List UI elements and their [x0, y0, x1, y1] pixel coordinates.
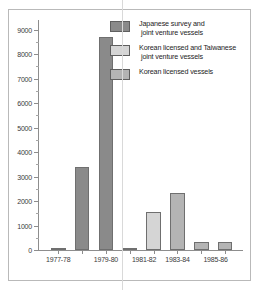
- y-tick-major: [34, 30, 39, 31]
- y-tick-major: [34, 103, 39, 104]
- y-tick-label: 5000: [17, 124, 32, 131]
- legend-swatch: [110, 45, 130, 56]
- y-tick-minor: [36, 115, 39, 116]
- x-tick: [58, 250, 59, 254]
- legend-swatch: [110, 21, 130, 32]
- bar-chart-figure: 0100020003000400050006000700080009000 19…: [0, 0, 260, 290]
- y-tick-minor: [36, 238, 39, 239]
- x-tick-label: 1985-86: [203, 256, 227, 263]
- x-tick-label: 1983-84: [165, 256, 189, 263]
- legend-item: Korean licensed vessels: [110, 68, 250, 80]
- x-tick: [106, 250, 107, 254]
- x-tick-label: 1979-80: [94, 256, 118, 263]
- y-tick-major: [34, 226, 39, 227]
- bar: [194, 242, 209, 250]
- y-tick-minor: [36, 213, 39, 214]
- legend-label: Japanese survey andjoint venture vessels: [139, 20, 204, 37]
- y-tick-label: 3000: [17, 173, 32, 180]
- y-tick-label: 2000: [17, 198, 32, 205]
- y-tick-label: 6000: [17, 100, 32, 107]
- y-tick-major: [34, 201, 39, 202]
- legend-item: Korean licensed and Taiwanesejoint ventu…: [110, 44, 250, 61]
- x-tick-label: 1977-78: [46, 256, 70, 263]
- legend-label-line: joint venture vessels: [139, 29, 204, 38]
- y-tick-major: [34, 177, 39, 178]
- y-tick-major: [34, 250, 39, 251]
- legend-label: Korean licensed and Taiwanesejoint ventu…: [139, 44, 236, 61]
- y-tick-minor: [36, 42, 39, 43]
- y-tick-label: 7000: [17, 75, 32, 82]
- y-tick-major: [34, 128, 39, 129]
- legend-label-line: Korean licensed vessels: [139, 68, 213, 77]
- y-tick-label: 0: [28, 247, 32, 254]
- x-tick: [82, 250, 83, 254]
- legend-label: Korean licensed vessels: [139, 68, 213, 77]
- x-tick: [130, 250, 131, 254]
- y-tick-minor: [36, 66, 39, 67]
- y-tick-minor: [36, 164, 39, 165]
- y-tick-minor: [36, 189, 39, 190]
- y-tick-label: 1000: [17, 222, 32, 229]
- chart-legend: Japanese survey andjoint venture vessels…: [110, 20, 250, 87]
- y-tick-minor: [36, 91, 39, 92]
- y-tick-major: [34, 79, 39, 80]
- bar: [146, 212, 161, 250]
- legend-item: Japanese survey andjoint venture vessels: [110, 20, 250, 37]
- bar: [218, 242, 233, 250]
- legend-swatch: [110, 69, 130, 80]
- legend-label-line: joint venture vessels: [139, 53, 236, 62]
- x-tick: [225, 250, 226, 254]
- y-tick-label: 9000: [17, 26, 32, 33]
- bar: [51, 248, 66, 250]
- x-tick-label: 1981-82: [132, 256, 156, 263]
- bar: [75, 167, 90, 250]
- y-tick-label: 4000: [17, 149, 32, 156]
- y-tick-minor: [36, 140, 39, 141]
- bar: [170, 193, 185, 250]
- x-tick: [201, 250, 202, 254]
- x-tick: [154, 250, 155, 254]
- x-tick: [177, 250, 178, 254]
- y-tick-major: [34, 152, 39, 153]
- y-tick-label: 8000: [17, 51, 32, 58]
- y-tick-major: [34, 54, 39, 55]
- x-axis-line: [38, 250, 243, 251]
- bar: [122, 248, 137, 250]
